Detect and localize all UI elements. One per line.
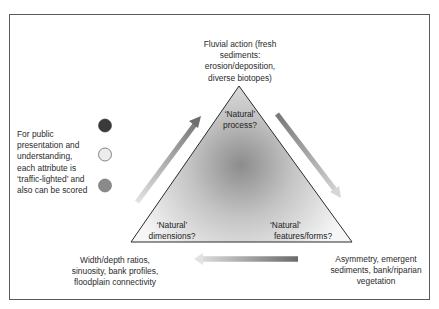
arrow-left-icon xyxy=(194,253,298,265)
natural-process-label: ‘Natural’ process? xyxy=(205,109,275,131)
text-line: each attribute is xyxy=(17,163,97,174)
text-line: diverse biotopes) xyxy=(180,73,300,84)
text-line: erosion/deposition, xyxy=(180,61,300,72)
text-line: Asymmetry, emergent xyxy=(320,254,432,265)
text-line: features/forms? xyxy=(263,231,343,242)
text-line: Fluvial action (fresh xyxy=(180,39,300,50)
text-line: also can be scored xyxy=(17,185,97,196)
text-line: ‘Natural’ xyxy=(205,109,275,120)
text-line: ‘Natural’ xyxy=(137,220,207,231)
text-line: dimensions? xyxy=(137,231,207,242)
text-line: Width/depth ratios, xyxy=(60,255,170,266)
natural-dimensions-label: ‘Natural’ dimensions? xyxy=(137,220,207,242)
text-line: sinuosity, bank profiles, xyxy=(60,266,170,277)
text-line: ‘Natural’ xyxy=(263,220,343,231)
traffic-light-light xyxy=(99,148,112,161)
text-line: presentation and xyxy=(17,140,97,151)
legend-text: For public presentation and understandin… xyxy=(17,129,97,196)
top-vertex-description: Fluvial action (fresh sediments: erosion… xyxy=(180,39,300,84)
text-line: For public xyxy=(17,129,97,140)
traffic-light-dark xyxy=(99,119,112,132)
bottom-right-vertex-description: Asymmetry, emergent sediments, bank/ripa… xyxy=(320,254,432,288)
text-line: process? xyxy=(205,120,275,131)
text-line: sediments: xyxy=(180,50,300,61)
bottom-left-vertex-description: Width/depth ratios, sinuosity, bank prof… xyxy=(60,255,170,289)
text-line: vegetation xyxy=(320,276,432,287)
traffic-light-medium xyxy=(99,179,112,192)
text-line: floodplain connectivity xyxy=(60,277,170,288)
text-line: sediments, bank/riparian xyxy=(320,265,432,276)
text-line: ‘traffic-lighted’ and xyxy=(17,174,97,185)
text-line: understanding, xyxy=(17,151,97,162)
natural-features-label: ‘Natural’ features/forms? xyxy=(263,220,343,242)
